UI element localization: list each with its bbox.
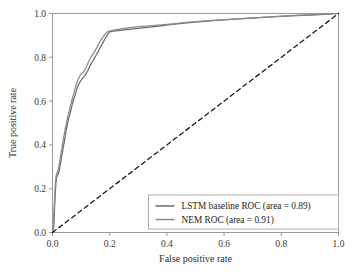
y-tick-label: 0.6: [34, 97, 46, 107]
x-axis-title: False positive rate: [159, 253, 232, 264]
x-tick-label: 0.4: [161, 239, 173, 249]
x-tick-label: 0.6: [218, 239, 230, 249]
x-tick-label: 0.0: [47, 239, 59, 249]
y-tick-label: 0.0: [34, 228, 46, 238]
legend-entry-label: NEM ROC (area = 0.91): [182, 215, 274, 226]
roc-plot-canvas: 0.00.20.40.60.81.00.00.20.40.60.81.0Fals…: [0, 0, 362, 274]
x-tick-label: 1.0: [333, 239, 345, 249]
y-tick-label: 0.8: [34, 53, 46, 63]
x-tick-label: 0.2: [104, 239, 116, 249]
y-tick-label: 1.0: [34, 9, 46, 19]
legend: LSTM baseline ROC (area = 0.89)NEM ROC (…: [149, 195, 339, 229]
x-tick-label: 0.8: [275, 239, 287, 249]
legend-entry-label: LSTM baseline ROC (area = 0.89): [182, 201, 311, 212]
y-axis-title: True positive rate: [7, 87, 18, 158]
y-tick-label: 0.4: [34, 140, 46, 150]
y-tick-label: 0.2: [34, 184, 46, 194]
roc-chart-figure: 0.00.20.40.60.81.00.00.20.40.60.81.0Fals…: [0, 0, 362, 274]
